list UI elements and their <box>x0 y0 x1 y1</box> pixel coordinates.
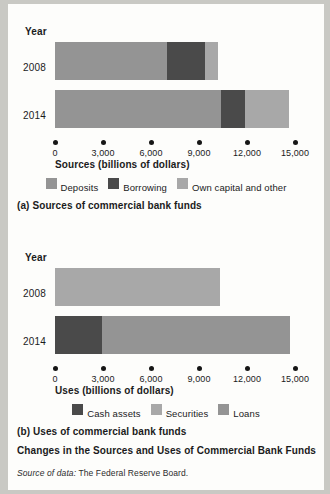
plot-area-sources <box>55 40 295 138</box>
legend-label-loans: Loans <box>233 408 259 419</box>
bar-segment-own-capital-and-other <box>205 42 218 80</box>
legend-item-own-capital-and-other[interactable]: Own capital and other <box>177 178 287 193</box>
figure-main-caption: Changes in the Sources and Uses of Comme… <box>17 445 316 456</box>
bar-segment-cash-assets <box>55 316 102 354</box>
legend-item-borrowing[interactable]: Borrowing <box>108 178 167 193</box>
legend-swatch-borrowing <box>108 178 119 189</box>
axis-tick-label: 9,000 <box>187 148 210 158</box>
legend-item-deposits[interactable]: Deposits <box>46 178 99 193</box>
source-note: Source of data: The Federal Reserve Boar… <box>17 468 188 478</box>
axis-tick-dot <box>245 366 250 371</box>
legend-swatch-securities <box>151 404 162 415</box>
axis-tick-label: 6,000 <box>139 374 162 384</box>
axis-tick-dot <box>101 140 106 145</box>
axis-tick-dot <box>293 140 298 145</box>
figure-container: Year 2008 2014 03,0006,0009,00012,00015,… <box>8 4 324 490</box>
axis-tick-dot <box>149 366 154 371</box>
axis-tick-label: 12,000 <box>233 374 261 384</box>
axis-tick-label: 0 <box>52 148 57 158</box>
legend-sources: DepositsBorrowingOwn capital and other <box>8 178 324 193</box>
axis-tick-label: 3,000 <box>91 374 114 384</box>
caption-uses: (b) Uses of commercial bank funds <box>17 426 186 437</box>
axis-tick-label: 0 <box>52 374 57 384</box>
year-label-2008-a: 2008 <box>23 62 46 73</box>
plot-area-uses <box>55 266 295 364</box>
legend-label-securities: Securities <box>166 408 209 419</box>
axis-tick-dot <box>197 366 202 371</box>
legend-swatch-loans <box>218 404 229 415</box>
x-axis-title-sources: Sources (billions of dollars) <box>55 159 190 170</box>
axis-tick-label: 15,000 <box>281 374 309 384</box>
legend-label-deposits: Deposits <box>61 182 99 193</box>
axis-tick-dot <box>245 140 250 145</box>
bar-sources-2008 <box>55 42 218 80</box>
axis-tick-dot <box>149 140 154 145</box>
year-axis-label-a: Year <box>25 26 47 37</box>
axis-tick-dot <box>293 366 298 371</box>
axis-tick-dot <box>101 366 106 371</box>
x-axis-title-uses: Uses (billions of dollars) <box>55 385 174 396</box>
legend-swatch-own-capital-and-other <box>177 178 188 189</box>
year-label-2008-b: 2008 <box>23 288 46 299</box>
bar-segment-borrowing <box>167 42 205 80</box>
bar-segment-deposits <box>55 90 221 128</box>
bar-uses-2008 <box>55 268 220 306</box>
bar-segment-deposits <box>55 42 167 80</box>
axis-tick-dot <box>197 140 202 145</box>
legend-swatch-deposits <box>46 178 57 189</box>
bar-segment-securities <box>55 268 220 306</box>
axis-tick-dot <box>53 366 58 371</box>
axis-tick-label: 6,000 <box>139 148 162 158</box>
axis-tick-label: 15,000 <box>281 148 309 158</box>
legend-uses: Cash assetsSecuritiesLoans <box>8 404 324 419</box>
bar-sources-2014 <box>55 90 289 128</box>
legend-item-cash-assets[interactable]: Cash assets <box>72 404 140 419</box>
year-axis-label-b: Year <box>25 252 47 263</box>
legend-label-borrowing: Borrowing <box>123 182 167 193</box>
chart-uses: Year 2008 2014 03,0006,0009,00012,00015,… <box>8 252 324 432</box>
bar-segment-loans <box>102 316 290 354</box>
legend-swatch-cash-assets <box>72 404 83 415</box>
axis-tick-label: 12,000 <box>233 148 261 158</box>
caption-sources: (a) Sources of commercial bank funds <box>17 200 202 211</box>
legend-item-securities[interactable]: Securities <box>151 404 209 419</box>
legend-item-loans[interactable]: Loans <box>218 404 259 419</box>
bar-segment-borrowing <box>221 90 245 128</box>
axis-tick-label: 3,000 <box>91 148 114 158</box>
legend-label-cash-assets: Cash assets <box>87 408 140 419</box>
axis-tick-dot <box>53 140 58 145</box>
source-note-lead: Source of data: <box>17 468 76 478</box>
page-sheet: Year 2008 2014 03,0006,0009,00012,00015,… <box>8 4 324 490</box>
axis-tick-label: 9,000 <box>187 374 210 384</box>
year-label-2014-a: 2014 <box>23 110 46 121</box>
chart-sources: Year 2008 2014 03,0006,0009,00012,00015,… <box>8 26 324 206</box>
bar-segment-own-capital-and-other <box>245 90 288 128</box>
bar-uses-2014 <box>55 316 290 354</box>
source-note-rest: The Federal Reserve Board. <box>76 468 188 478</box>
legend-label-own-capital-and-other: Own capital and other <box>192 182 287 193</box>
year-label-2014-b: 2014 <box>23 336 46 347</box>
